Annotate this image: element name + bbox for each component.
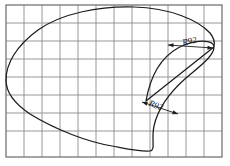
technical-drawing-canvas: R92R92 bbox=[0, 0, 230, 166]
canvas-background bbox=[0, 0, 230, 166]
grid-layer bbox=[0, 0, 230, 166]
drawing-svg: R92R92 bbox=[0, 0, 230, 166]
